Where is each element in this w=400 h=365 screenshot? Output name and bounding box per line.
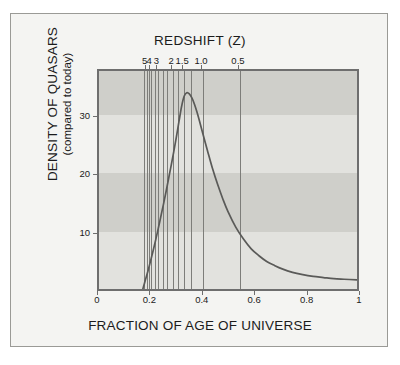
x-tick-mark: [97, 291, 98, 295]
y-tick-label: 30: [64, 110, 90, 121]
y-tick-label: 20: [64, 168, 90, 179]
x-tick-mark: [254, 291, 255, 295]
y-axis-sublabel: (compared to today): [61, 53, 73, 156]
x-tick-label: 0.6: [239, 294, 269, 305]
x-axis-label: FRACTION OF AGE OF UNIVERSE: [11, 318, 389, 333]
x-tick-label: 1: [344, 294, 374, 305]
x-tick-mark: [359, 291, 360, 295]
x-tick-label: 0: [82, 294, 112, 305]
figure-frame: REDSHIFT (Z) DENSITY OF QUASARS (compare…: [10, 13, 388, 347]
plot-area: [97, 69, 359, 291]
x-tick-mark: [149, 291, 150, 295]
x-tick-label: 0.2: [134, 294, 164, 305]
x-tick-label: 0.4: [187, 294, 217, 305]
x-tick-mark: [307, 291, 308, 295]
x-tick-mark: [202, 291, 203, 295]
y-axis-label-group: DENSITY OF QUASARS (compared to today): [29, 0, 89, 212]
quasar-density-curve: [99, 71, 357, 289]
y-axis-label: DENSITY OF QUASARS: [45, 27, 60, 181]
x-tick-label: 0.8: [292, 294, 322, 305]
y-tick-label: 10: [64, 227, 90, 238]
